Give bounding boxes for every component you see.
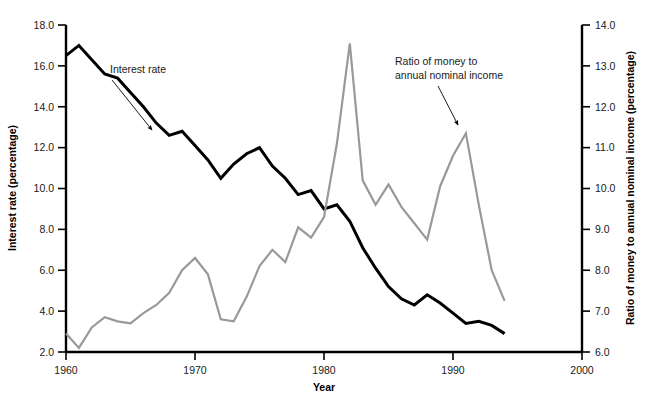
annotation-arrow-2: [438, 86, 458, 125]
right-tick-label: 11.0: [595, 141, 615, 153]
left-tick-label: 12.0: [34, 141, 55, 153]
annotation-label-2: Ratio of money toannual nominal income: [395, 55, 503, 81]
left-tick-label: 6.0: [39, 264, 54, 276]
right-tick-label: 12.0: [595, 101, 616, 113]
bottom-axis-ticks: 19601970198019902000: [54, 352, 594, 376]
x-tick-label: 2000: [570, 364, 594, 376]
right-axis-ticks: 6.07.08.09.010.011.012.013.014.0: [582, 19, 616, 358]
line-chart: 2.04.06.08.010.012.014.016.018.0 6.07.08…: [0, 0, 648, 400]
left-axis-ticks: 2.04.06.08.010.012.014.016.018.0: [34, 19, 66, 358]
annotation-arrow-1: [112, 80, 152, 130]
x-axis-title: Year: [313, 381, 335, 393]
right-tick-label: 13.0: [595, 60, 616, 72]
right-tick-label: 8.0: [595, 264, 610, 276]
right-tick-label: 6.0: [595, 346, 610, 358]
left-tick-label: 2.0: [39, 346, 54, 358]
right-tick-label: 14.0: [595, 19, 616, 31]
left-axis-title: Interest rate (percentage): [6, 125, 18, 251]
annotation-label-1: Interest rate: [110, 63, 166, 75]
right-tick-label: 9.0: [595, 223, 610, 235]
left-tick-label: 4.0: [39, 305, 54, 317]
right-tick-label: 10.0: [595, 182, 616, 194]
left-tick-label: 14.0: [34, 101, 55, 113]
left-tick-label: 16.0: [34, 60, 55, 72]
x-tick-label: 1990: [441, 364, 465, 376]
x-tick-label: 1960: [54, 364, 78, 376]
left-tick-label: 8.0: [39, 223, 54, 235]
x-tick-label: 1980: [312, 364, 336, 376]
data-series-layer: [66, 43, 505, 348]
right-axis-title: Ratio of money to annual nominal income …: [624, 51, 636, 325]
left-tick-label: 10.0: [34, 182, 55, 194]
left-tick-label: 18.0: [34, 19, 55, 31]
right-tick-label: 7.0: [595, 305, 610, 317]
chart-root: 2.04.06.08.010.012.014.016.018.0 6.07.08…: [0, 0, 648, 400]
annotations-layer: Interest rateRatio of money toannual nom…: [110, 55, 503, 130]
x-tick-label: 1970: [183, 364, 207, 376]
